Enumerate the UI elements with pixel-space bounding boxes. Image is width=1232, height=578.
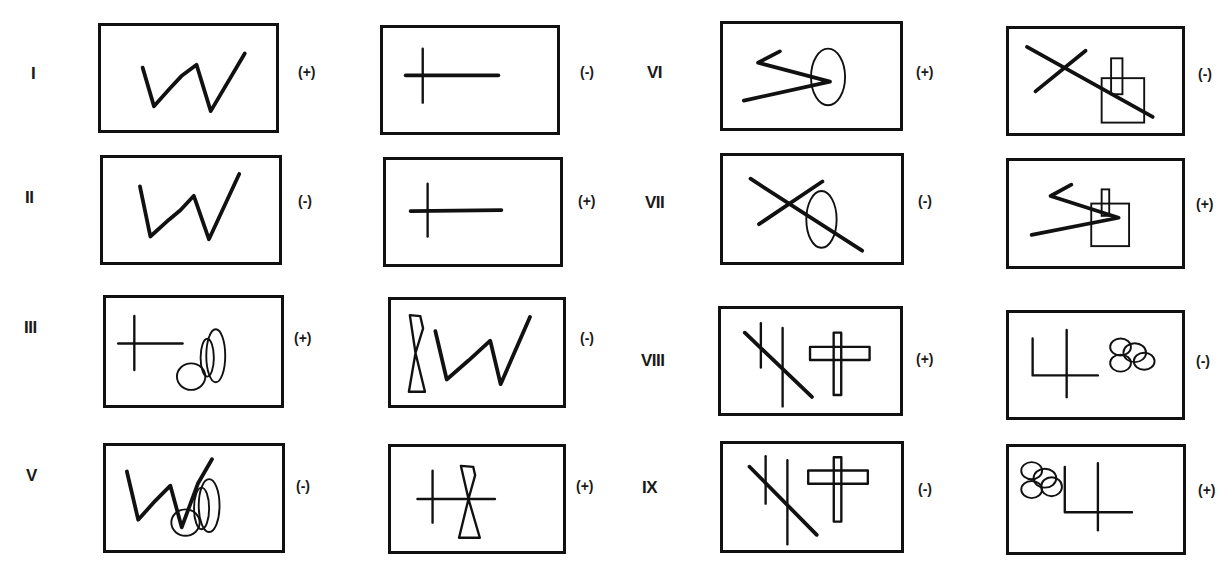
row-label-VI: VI [647,63,662,83]
cross-line-drawing [386,160,560,264]
panel-III-right [388,297,566,408]
row-label-III: III [24,318,37,338]
panel-VII-right [1006,158,1185,269]
ellipse-cluster-with-corner-cross-drawing [1009,447,1183,552]
panel-II-left [100,155,282,265]
panel-VI-left [720,21,903,131]
panel-IX-right [1006,444,1186,555]
sign-V-left: (-) [296,478,310,494]
sign-VIII-right: (-) [1196,353,1210,369]
sign-III-left: (+) [294,330,312,346]
panel-VI-right [1006,26,1185,136]
sign-VI-right: (-) [1198,66,1212,82]
panel-V-left [103,443,285,553]
sign-II-left: (-) [298,193,312,209]
row-label-V: V [26,466,37,486]
zigzag-w-drawing [103,158,279,262]
arrow-lines-with-rectangles-drawing [1009,161,1182,266]
panel-I-right [380,25,560,135]
row-label-VII: VII [645,193,664,213]
sign-IX-left: (-) [918,481,932,497]
slash-verticals-with-rect-cross-drawing [723,444,901,550]
cross-line-drawing [383,28,557,132]
panel-II-right [383,157,563,267]
sign-IX-right: (+) [1198,482,1216,498]
sign-VIII-left: (+) [916,351,934,367]
sign-V-right: (+) [576,478,594,494]
panel-VIII-right [1006,310,1185,420]
sign-VII-left: (-) [918,193,932,209]
cross-line-with-hourglass-drawing [391,447,563,551]
row-label-I: I [31,64,35,84]
sign-I-left: (+) [298,64,316,80]
zigzag-w-drawing [101,26,276,130]
sign-VII-right: (+) [1196,196,1214,212]
x-lines-with-ellipse-drawing [723,156,901,262]
sign-II-right: (+) [578,193,596,209]
panel-V-right [388,444,566,554]
cross-line-with-ellipses-drawing [106,298,281,405]
corner-cross-with-ellipse-cluster-drawing [1009,313,1182,417]
sign-VI-left: (+) [916,64,934,80]
panel-IX-left [720,441,904,553]
zigzag-with-ellipses-drawing [106,446,282,550]
panel-I-left [98,23,279,133]
row-label-IX: IX [642,478,657,498]
panel-VIII-left [718,306,903,416]
row-label-II: II [25,188,33,208]
row-label-VIII: VIII [641,351,665,371]
x-lines-with-rectangles-drawing [1009,29,1182,133]
hourglass-with-zigzag-drawing [391,300,563,405]
panel-VII-left [720,153,904,265]
sign-III-right: (-) [580,330,594,346]
panel-III-left [103,295,284,408]
arrow-lines-with-ellipse-drawing [723,24,900,128]
slash-verticals-with-rect-cross-drawing [721,309,900,413]
sign-I-right: (-) [580,64,594,80]
